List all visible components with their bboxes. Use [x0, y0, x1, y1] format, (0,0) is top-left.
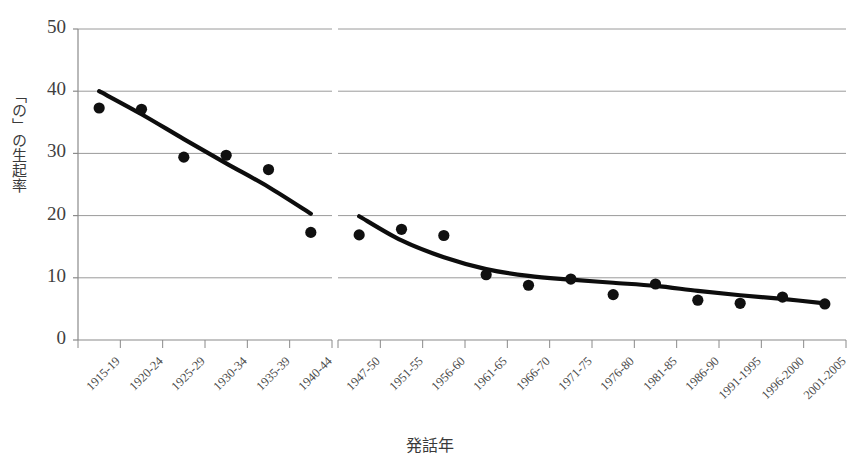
y-tick-label: 20 [26, 203, 66, 225]
data-point [354, 229, 365, 240]
data-point [263, 164, 274, 175]
data-point [819, 298, 830, 309]
data-point [136, 104, 147, 115]
data-point [178, 152, 189, 163]
data-point [438, 230, 449, 241]
trendline [359, 216, 825, 303]
gridlines-group [78, 29, 846, 278]
data-point [396, 224, 407, 235]
data-point [565, 273, 576, 284]
data-point [481, 269, 492, 280]
y-tick-label: 0 [26, 327, 66, 349]
data-point-group [94, 102, 831, 309]
y-tick-label: 40 [26, 78, 66, 100]
trendline-group [99, 91, 825, 303]
data-point [735, 298, 746, 309]
data-point [305, 227, 316, 238]
y-tick-label: 50 [26, 16, 66, 38]
data-point [94, 102, 105, 113]
trendline [99, 91, 311, 214]
y-tick-label: 30 [26, 140, 66, 162]
data-point [523, 280, 534, 291]
y-axis-title: 「の」の生起率 [2, 88, 28, 193]
data-point [608, 289, 619, 300]
data-point [777, 291, 788, 302]
data-point [692, 295, 703, 306]
data-point [221, 150, 232, 161]
y-tick-label: 10 [26, 265, 66, 287]
chart-figure: 「の」の生起率 01020304050 1915-191920-241925-2… [0, 0, 859, 468]
data-point [650, 278, 661, 289]
x-axis-title: 発話年 [0, 432, 859, 456]
x-tick-marks-group [78, 340, 846, 348]
